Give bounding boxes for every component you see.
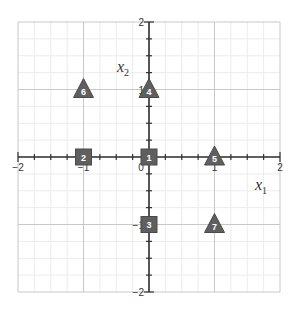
- point-label: 1: [146, 153, 151, 163]
- point-label: 2: [81, 153, 86, 163]
- x-tick-label: 2: [277, 162, 283, 173]
- point-label: 7: [212, 222, 217, 232]
- y-axis-label: x2: [116, 58, 129, 78]
- y-tick-label: 2: [138, 17, 144, 28]
- square-point: 3: [141, 217, 157, 233]
- triangle-point: 6: [74, 79, 94, 98]
- triangle-point: 7: [205, 214, 225, 233]
- square-point: 2: [76, 149, 92, 165]
- x-axis-label: x1: [254, 176, 267, 196]
- point-label: 6: [81, 87, 86, 97]
- y-tick-label: −2: [133, 287, 145, 298]
- triangle-point: 5: [205, 146, 225, 165]
- point-label: 3: [146, 220, 151, 230]
- square-point: 1: [141, 149, 157, 165]
- x-tick-label: −2: [12, 162, 24, 173]
- coordinate-plane: −2−1012−2−112 x2 x1 1234567: [0, 0, 295, 309]
- point-label: 5: [212, 154, 217, 164]
- point-label: 4: [146, 87, 151, 97]
